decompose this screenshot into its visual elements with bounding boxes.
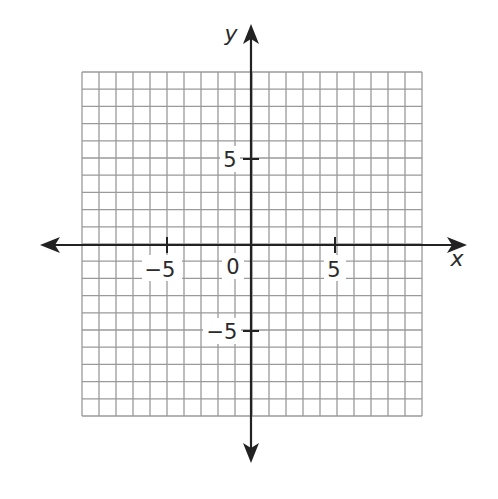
y-tick-label-5: 5 — [223, 148, 236, 172]
x-tick-label-neg5: −5 — [145, 258, 176, 282]
y-tick-label-neg5: −5 — [207, 320, 238, 344]
origin-label: 0 — [226, 255, 239, 279]
x-axis-label: x — [449, 246, 464, 271]
x-tick-label-5: 5 — [327, 258, 340, 282]
coordinate-plane: −5 5 0 5 −5 y x — [0, 0, 498, 499]
x-axis — [40, 237, 467, 253]
y-axis-label: y — [223, 21, 238, 46]
